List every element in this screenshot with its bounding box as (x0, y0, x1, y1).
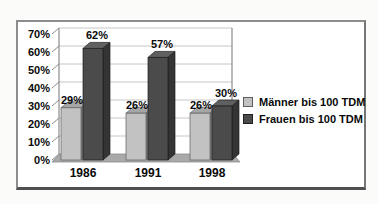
x-axis-label-1986: 1986 (70, 166, 97, 180)
y-axis-label-0%: 0% (34, 154, 50, 166)
bar-front-s1-1986 (83, 48, 103, 160)
bar-front-s0-1991 (126, 113, 146, 160)
y-axis-label-70%: 70% (28, 28, 50, 40)
y-axis-label-20%: 20% (28, 118, 50, 130)
y-axis-tick-70% (52, 28, 59, 34)
y-axis-label-40%: 40% (28, 82, 50, 94)
legend-label-maenner: Männer bis 100 TDM (259, 96, 365, 108)
y-axis-label-50%: 50% (28, 64, 50, 76)
bar-value-label-s1-1986: 62% (86, 29, 108, 41)
y-axis-label-10%: 10% (28, 136, 50, 148)
bar-value-label-s1-1991: 57% (151, 38, 173, 50)
bar-value-label-s0-1986: 29% (61, 94, 83, 106)
bar-side-s1-1998 (232, 100, 239, 160)
y-axis-label-60%: 60% (28, 46, 50, 58)
bar-front-s1-1991 (148, 57, 168, 160)
legend: Männer bis 100 TDM Frauen bis 100 TDM (243, 92, 365, 129)
legend-label-frauen: Frauen bis 100 TDM (259, 113, 363, 125)
legend-swatch-frauen-icon (243, 114, 253, 124)
y-axis-tick-30% (52, 100, 59, 106)
y-axis-tick-60% (52, 46, 59, 52)
y-axis-tick-10% (52, 136, 59, 142)
y-axis-tick-20% (52, 118, 59, 124)
bar-front-s0-1998 (190, 113, 210, 160)
bar-front-s1-1998 (212, 106, 232, 160)
legend-swatch-maenner-icon (243, 97, 253, 107)
bar-side-s1-1986 (103, 42, 110, 160)
bar-value-label-s0-1998: 26% (190, 99, 212, 111)
y-axis-label-30%: 30% (28, 100, 50, 112)
bar-value-label-s0-1991: 26% (126, 99, 148, 111)
x-axis-label-1998: 1998 (199, 166, 226, 180)
y-axis-tick-50% (52, 64, 59, 70)
bar-side-s1-1991 (168, 51, 175, 160)
bar-front-s0-1986 (61, 108, 81, 160)
legend-entry-maenner: Männer bis 100 TDM (243, 95, 365, 109)
x-axis-label-1991: 1991 (135, 166, 162, 180)
y-axis-tick-40% (52, 82, 59, 88)
bar-value-label-s1-1998: 30% (215, 87, 237, 99)
legend-entry-frauen: Frauen bis 100 TDM (243, 112, 365, 126)
